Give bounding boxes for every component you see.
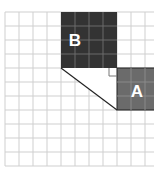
label-a: A (131, 82, 143, 101)
label-b: B (69, 31, 81, 50)
grid-diagram: B A (0, 0, 154, 172)
